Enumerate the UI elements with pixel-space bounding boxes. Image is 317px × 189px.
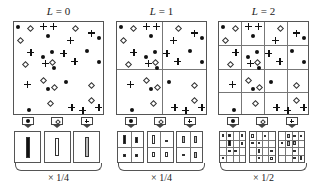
plus-icon <box>143 23 150 30</box>
histogram-grid-horizontal <box>118 147 143 148</box>
level-value: = 1 <box>156 5 173 17</box>
filled-circle-icon <box>49 49 56 56</box>
hollow-diamond-icon <box>251 99 258 106</box>
plus-icon <box>247 60 254 67</box>
plus-icon <box>272 37 279 44</box>
plus-icon <box>170 37 177 44</box>
filled-circle-icon <box>186 48 193 55</box>
histogram-bar <box>182 154 185 156</box>
plus-icon <box>60 50 67 57</box>
filled-circle-icon <box>300 34 307 41</box>
histogram-bar <box>258 149 261 154</box>
scale-brace <box>220 163 307 171</box>
level-value: = 0 <box>53 5 70 17</box>
plus-icon <box>174 58 181 65</box>
plus-icon <box>27 49 34 56</box>
histogram-grid-horizontal <box>177 147 202 148</box>
scale-factor-label: × 1/2 <box>234 172 294 183</box>
hollow-diamond-icon <box>88 81 95 88</box>
down-arrow-filled-circle <box>227 117 239 129</box>
plus-icon <box>284 107 291 114</box>
histogram-grid-vertical <box>298 132 299 162</box>
plus-icon <box>145 60 152 67</box>
plus-icon <box>293 30 300 37</box>
histogram-bar <box>258 142 261 144</box>
hollow-diamond-icon <box>71 24 78 31</box>
down-arrow-hollow-diamond <box>256 117 268 129</box>
grid-line-horizontal <box>117 69 206 70</box>
histogram-bar <box>270 150 273 152</box>
plus-icon <box>191 30 198 37</box>
histogram-bar <box>152 135 155 143</box>
histogram-bar <box>287 134 290 138</box>
histogram-bar <box>241 134 244 137</box>
hollow-diamond-icon <box>130 24 137 31</box>
histogram-grid-horizontal <box>279 147 304 148</box>
histogram-plus <box>278 131 305 163</box>
histogram-bar <box>300 135 303 137</box>
filled-circle-icon <box>152 49 159 56</box>
hollow-diamond-icon <box>222 37 229 44</box>
histogram-bar <box>251 142 254 144</box>
hollow-diamond-icon <box>120 37 127 44</box>
histogram-bar <box>251 134 254 138</box>
filled-circle-icon <box>26 119 30 123</box>
plus-icon <box>153 23 160 30</box>
down-arrow-hollow-diamond <box>51 117 63 129</box>
level-label: L = 2 <box>218 5 309 17</box>
scale-factor-label: × 1/4 <box>132 172 192 183</box>
histogram-grid-horizontal <box>279 155 304 156</box>
filled-circle-icon <box>300 59 307 66</box>
hollow-diamond-icon <box>293 81 300 88</box>
plus-icon <box>265 50 272 57</box>
level-panel-0: L = 0× 1/4 <box>13 0 104 189</box>
scale-brace <box>118 163 205 171</box>
filled-circle-icon <box>147 86 154 93</box>
histogram-grid-vertical <box>268 132 269 162</box>
plus-icon <box>67 37 74 44</box>
histogram-bar <box>228 140 231 146</box>
plus-icon <box>95 104 102 111</box>
histogram-bar <box>165 140 168 142</box>
arrow-pointer <box>257 124 267 128</box>
plus-icon <box>127 81 134 88</box>
plus-icon <box>79 107 86 114</box>
histogram-bar <box>293 157 296 159</box>
filled-circle-icon <box>44 32 51 39</box>
histogram-bar <box>165 152 168 157</box>
plus-icon <box>229 81 236 88</box>
plus-icon <box>130 49 137 56</box>
filled-circle-icon <box>254 49 261 56</box>
hollow-diamond-icon <box>154 84 161 91</box>
histogram-bar <box>26 137 30 158</box>
histogram-plus <box>73 131 100 163</box>
hollow-diamond-icon <box>174 24 181 31</box>
histogram-bar <box>194 152 197 158</box>
filled-circle-icon <box>231 119 235 123</box>
arrow-pointer <box>52 124 62 128</box>
filled-circle-icon <box>51 65 58 72</box>
histogram-plus <box>176 131 203 163</box>
scale-brace <box>15 163 102 171</box>
filled-circle-icon <box>198 34 205 41</box>
plus-icon <box>40 23 47 30</box>
hollow-diamond-icon <box>226 61 233 68</box>
hollow-diamond-icon <box>276 24 283 31</box>
level-value: = 2 <box>258 5 275 17</box>
histogram-bar <box>228 134 231 137</box>
histogram-bar <box>293 141 296 145</box>
hollow-diamond-icon <box>21 61 28 68</box>
histogram-bar <box>135 154 138 157</box>
histogram-bar <box>241 142 244 145</box>
hollow-diamond-icon <box>191 81 198 88</box>
histogram-bar <box>293 150 296 152</box>
filled-circle-icon <box>249 86 256 93</box>
plus-icon <box>300 104 307 111</box>
filled-circle-icon <box>288 48 295 55</box>
filled-circle-icon <box>129 107 136 114</box>
histogram-grid-vertical <box>239 132 240 162</box>
filled-circle-icon <box>95 59 102 66</box>
down-arrow-hollow-diamond <box>154 117 166 129</box>
filled-circle-icon <box>95 34 102 41</box>
filled-circle-icon <box>44 86 51 93</box>
